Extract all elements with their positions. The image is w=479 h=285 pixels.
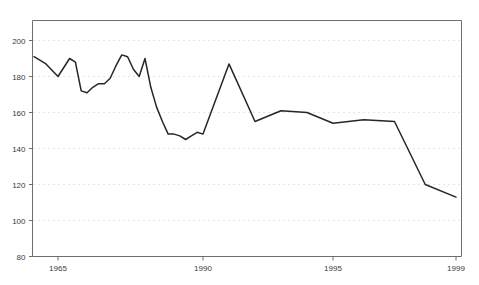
y-tick-label-180: 180 — [12, 73, 26, 82]
y-tick-label-160: 160 — [12, 109, 26, 118]
y-tick-label-200: 200 — [12, 37, 26, 46]
line-chart-svg: 80100120140160180200 1965199019951999 — [0, 0, 479, 285]
y-tick-label-100: 100 — [12, 217, 26, 226]
chart-figure: 80100120140160180200 1965199019951999 — [0, 0, 479, 285]
y-tick-label-120: 120 — [12, 181, 26, 190]
x-tick-label-1995: 1995 — [324, 264, 342, 273]
x-tick-label-1965: 1965 — [49, 264, 67, 273]
chart-background — [0, 0, 479, 285]
y-tick-label-140: 140 — [12, 145, 26, 154]
x-tick-label-1999: 1999 — [447, 264, 465, 273]
y-tick-label-80: 80 — [17, 253, 26, 262]
x-tick-label-1990: 1990 — [194, 264, 212, 273]
